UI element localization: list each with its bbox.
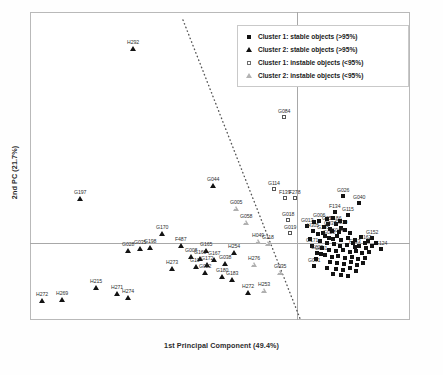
point-cluster2-stable [219,274,225,279]
point-cluster2-stable [77,196,83,201]
legend-label: Cluster 2: instable objects (<95%) [258,71,363,80]
point-cluster1-stable [327,248,331,252]
point-label: G022 [199,263,211,269]
point-cluster1-stable [357,244,361,248]
point-cluster2-stable [147,245,153,250]
point-cluster1-stable [348,231,352,235]
point-label: G197 [74,189,86,195]
point-cluster1-stable [346,274,350,278]
point-cluster1-stable [332,242,336,246]
filled-triangle-icon [243,45,255,54]
point-cluster1-stable [323,253,327,257]
point-cluster1-stable [367,250,371,254]
point-cluster1-stable [325,217,329,221]
point-cluster1-stable [312,264,316,268]
point-cluster1-stable [325,266,329,270]
point-label: G198 [144,238,156,244]
point-cluster1-stable [361,261,365,265]
point-cluster2-stable [229,277,235,282]
point-label: H274 [122,288,134,294]
point-label: G115 [342,206,354,212]
point-label: G183 [226,270,238,276]
point-cluster1-stable [336,254,340,258]
point-cluster2-instable [265,241,271,246]
point-cluster1-stable [355,263,359,267]
point-label: H273 [166,259,178,265]
point-cluster1-stable [363,256,367,260]
open-square-icon [243,58,255,67]
point-label: F487 [175,236,186,242]
point-cluster2-stable [210,183,216,188]
point-cluster1-stable [360,251,364,255]
legend-label: Cluster 2: stable objects (>95%) [258,45,358,54]
point-label: H276 [248,255,260,261]
point-cluster1-stable [316,232,320,236]
point-label: H215 [90,278,102,284]
point-label: H253 [258,281,270,287]
point-cluster1-stable [334,267,338,271]
point-cluster1-stable [338,219,342,223]
point-cluster2-stable [114,291,120,296]
point-cluster2-stable [231,250,237,255]
point-cluster1-stable [348,250,352,254]
point-cluster1-stable [374,241,378,245]
filled-square-icon [243,32,255,41]
point-cluster2-instable [261,288,267,293]
point-cluster2-instable [277,270,283,275]
point-cluster1-stable [333,210,337,214]
point-cluster2-stable [211,257,217,262]
point-label: G044 [207,176,219,182]
point-cluster1-stable [322,225,326,229]
point-cluster1-stable [356,257,360,261]
point-cluster1-stable [341,194,345,198]
point-cluster1-stable [325,241,329,245]
legend-label: Cluster 1: stable objects (>95%) [258,32,358,41]
point-cluster1-instable [282,115,287,120]
pca-scatter-figure: G026G040F134G115G006G051F186G013G037G039… [0,0,443,375]
point-cluster1-stable [312,220,316,224]
point-cluster1-stable [339,238,343,242]
x-axis-label: 1st Principal Component (49.4%) [0,341,443,350]
point-cluster1-stable [343,220,347,224]
point-cluster1-stable [351,241,355,245]
point-cluster1-instable [288,231,293,236]
point-label: G019 [284,224,296,230]
point-cluster2-stable [159,231,165,236]
point-label: G170 [156,224,168,230]
point-cluster1-stable [334,249,338,253]
point-cluster1-stable [320,246,324,250]
point-cluster1-stable [346,213,350,217]
point-cluster1-stable [331,216,335,220]
point-label: G005 [230,199,242,205]
point-cluster1-stable [357,201,361,205]
point-label: H269 [56,290,68,296]
point-cluster2-stable [39,298,45,303]
point-cluster1-stable [331,237,335,241]
point-label: G028 [122,241,134,247]
point-label: G038 [219,254,231,260]
point-cluster2-stable [169,266,175,271]
point-cluster1-stable [339,273,343,277]
legend-item-cluster2-instable: Cluster 2: instable objects (<95%) [243,69,403,82]
point-cluster1-instable [286,218,291,223]
point-label: G040 [353,194,365,200]
point-cluster1-stable [345,243,349,247]
point-cluster1-stable [350,255,354,259]
point-cluster1-stable [311,229,315,233]
point-label: H272 [242,283,254,289]
point-cluster2-instable [233,206,239,211]
point-label: G084 [278,108,290,114]
point-cluster1-stable [349,260,353,264]
point-cluster1-stable [335,261,339,265]
point-label: H272 [36,291,48,297]
point-cluster2-stable [178,243,184,248]
point-cluster1-stable [354,269,358,273]
point-label: G035 [274,263,286,269]
point-cluster1-stable [323,234,327,238]
point-label: G058 [240,213,252,219]
point-cluster1-stable [330,229,334,233]
legend-item-cluster2-stable: Cluster 2: stable objects (>95%) [243,43,403,56]
point-label: G114 [268,180,280,186]
point-label: H254 [228,243,240,249]
point-cluster2-stable [193,264,199,269]
